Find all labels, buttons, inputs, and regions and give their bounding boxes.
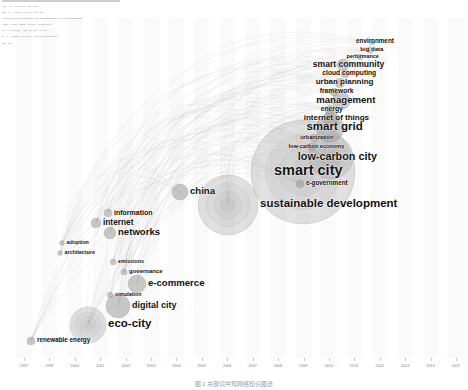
- graph-node[interactable]: [110, 259, 116, 265]
- graph-node[interactable]: [104, 209, 112, 217]
- figure-caption: 图 2 关键词共现网络知识图谱: [0, 379, 468, 390]
- keyword-label[interactable]: management: [316, 95, 375, 105]
- axis-tick-mark: [100, 358, 101, 361]
- axis-tick-mark: [431, 358, 432, 361]
- axis-tick-mark: [304, 358, 305, 361]
- keyword-label[interactable]: digital city: [132, 301, 177, 310]
- axis-tick-mark: [126, 358, 127, 361]
- keyword-label[interactable]: cloud computing: [322, 70, 376, 77]
- keyword-label[interactable]: framework: [320, 88, 354, 95]
- axis-tick-mark: [202, 358, 203, 361]
- axis-tick-mark: [49, 358, 50, 361]
- keyword-label[interactable]: smart grid: [306, 121, 362, 133]
- graph-node[interactable]: [121, 269, 127, 275]
- keyword-label[interactable]: information: [114, 209, 153, 216]
- keyword-label[interactable]: smart city: [274, 163, 343, 178]
- axis-tick-mark: [227, 358, 228, 361]
- axis-tick-label: 2010: [325, 364, 333, 368]
- keyword-label[interactable]: environment: [356, 38, 394, 44]
- axis-tick-mark: [24, 358, 25, 361]
- axis-tick-label: 2004: [172, 364, 180, 368]
- graph-node[interactable]: [104, 227, 116, 239]
- keyword-label[interactable]: eco-city: [108, 318, 151, 330]
- year-axis: 1997199920002001200220032004200520062007…: [0, 358, 468, 374]
- keyword-label[interactable]: governance: [129, 268, 163, 274]
- visualization-canvas: nnn v. 5.8 R12 (64-bit) Apr 17, 2019 5:2…: [0, 0, 468, 390]
- keyword-label[interactable]: adoption: [67, 240, 89, 245]
- axis-tick-mark: [405, 358, 406, 361]
- keyword-label[interactable]: china: [190, 186, 215, 196]
- keyword-label[interactable]: e-commerce: [148, 278, 205, 288]
- graph-node[interactable]: [60, 241, 65, 246]
- keyword-label[interactable]: emissions: [118, 259, 144, 264]
- keyword-label[interactable]: urban planning: [316, 78, 374, 86]
- keyword-label[interactable]: internet of things: [304, 114, 369, 122]
- axis-tick-mark: [354, 358, 355, 361]
- axis-tick-mark: [253, 358, 254, 361]
- network-graph: [0, 0, 468, 390]
- graph-node[interactable]: [172, 184, 188, 200]
- keyword-label[interactable]: low-carbon economy: [288, 144, 344, 150]
- keyword-label[interactable]: smart community: [313, 60, 385, 69]
- axis-tick-label: 2014: [426, 364, 434, 368]
- axis-tick-label: 1997: [20, 364, 28, 368]
- axis-tick-label: 2013: [401, 364, 409, 368]
- axis-tick-label: 2003: [147, 364, 155, 368]
- keyword-label[interactable]: low-carbon city: [298, 151, 377, 162]
- axis-tick-label: 2007: [249, 364, 257, 368]
- axis-tick-label: 2001: [96, 364, 104, 368]
- axis-tick-mark: [151, 358, 152, 361]
- keyword-label[interactable]: renewable energy: [37, 337, 90, 343]
- axis-tick-label: 1999: [45, 364, 53, 368]
- axis-tick-label: 2009: [299, 364, 307, 368]
- axis-tick-mark: [456, 358, 457, 361]
- axis-tick-label: 2006: [223, 364, 231, 368]
- axis-tick-mark: [278, 358, 279, 361]
- keyword-label[interactable]: simulation: [115, 292, 142, 297]
- keyword-label[interactable]: urbanization: [300, 135, 333, 141]
- axis-tick-mark: [176, 358, 177, 361]
- timeline-spoke: [31, 250, 70, 341]
- axis-tick-label: 2000: [71, 364, 79, 368]
- keyword-label[interactable]: e-government: [306, 180, 348, 186]
- axis-tick-label: 2011: [350, 364, 358, 368]
- keyword-label[interactable]: internet: [103, 218, 133, 226]
- keyword-label[interactable]: energy: [321, 106, 343, 113]
- axis-tick-mark: [380, 358, 381, 361]
- axis-tick-label: 2012: [376, 364, 384, 368]
- axis-tick-label: 2005: [198, 364, 206, 368]
- axis-tick-mark: [329, 358, 330, 361]
- axis-tick-label: 2008: [274, 364, 282, 368]
- keyword-label[interactable]: architecture: [65, 250, 95, 255]
- keyword-label[interactable]: performance: [347, 54, 379, 59]
- keyword-label[interactable]: sustainable development: [260, 198, 397, 210]
- graph-node[interactable]: [107, 292, 113, 298]
- keyword-label[interactable]: big data: [360, 46, 383, 52]
- axis-tick-label: 2015: [452, 364, 460, 368]
- keyword-label[interactable]: networks: [118, 227, 160, 237]
- axis-tick-label: 2002: [121, 364, 129, 368]
- axis-tick-mark: [75, 358, 76, 361]
- node-citation-ring: [221, 198, 235, 212]
